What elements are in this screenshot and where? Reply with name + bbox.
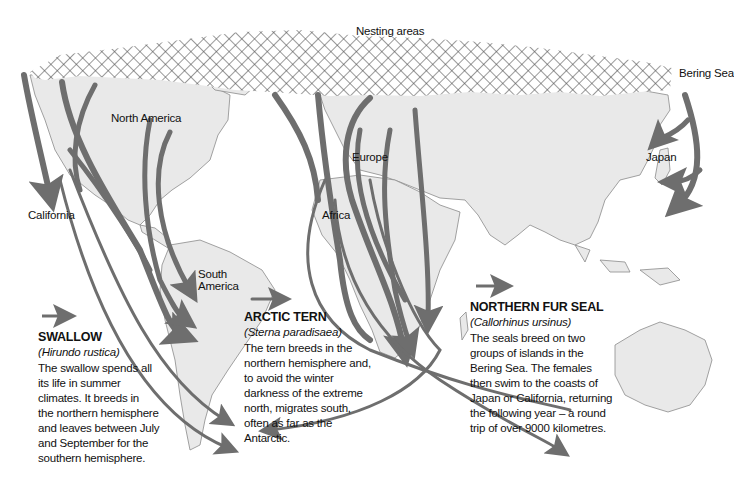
swallow-description: The swallow spends all its life in summe… (38, 361, 198, 466)
label-bering-sea: Bering Sea (679, 67, 734, 79)
label-north-america: North America (111, 112, 181, 124)
legend-arctic-tern: ARCTIC TERN (Sterna paradisaea) The tern… (244, 310, 374, 446)
north-america-landmass (30, 72, 230, 225)
label-south-america: South America (198, 268, 239, 292)
fur-seal-scientific-name: (Callorhinus ursinus) (470, 316, 630, 328)
label-africa: Africa (322, 209, 350, 221)
label-nesting-areas: Nesting areas (356, 25, 424, 37)
fur-seal-title: NORTHERN FUR SEAL (470, 300, 630, 314)
label-europe: Europe (352, 151, 388, 163)
arctic-tern-scientific-name: (Sterna paradisaea) (244, 326, 374, 338)
arctic-tern-description: The tern breeds in the northern hemisphe… (244, 341, 374, 446)
label-japan: Japan (646, 151, 676, 163)
label-south-america-line2: America (198, 280, 239, 292)
label-california: California (28, 209, 75, 221)
swallow-title: SWALLOW (38, 330, 198, 344)
legend-swallow: SWALLOW (Hirundo rustica) The swallow sp… (38, 330, 198, 466)
fur-seal-description: The seals breed on two groups of islands… (470, 331, 630, 436)
swallow-scientific-name: (Hirundo rustica) (38, 346, 198, 358)
label-south-america-line1: South (198, 268, 227, 280)
arctic-tern-title: ARCTIC TERN (244, 310, 374, 324)
legend-northern-fur-seal: NORTHERN FUR SEAL (Callorhinus ursinus) … (470, 300, 630, 436)
